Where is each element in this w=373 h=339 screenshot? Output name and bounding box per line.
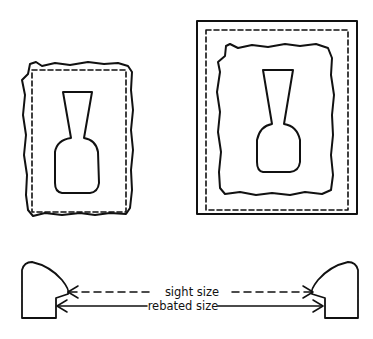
sight-size-label: sight size xyxy=(165,285,219,299)
framed-picture xyxy=(197,21,357,214)
vase-drawing xyxy=(257,70,300,172)
unframed-picture xyxy=(22,62,133,216)
left-moulding-profile xyxy=(22,262,68,318)
vase-drawing xyxy=(55,92,99,193)
sight-line-dashed xyxy=(206,30,348,210)
framing-diagram: sight size rebated size xyxy=(0,0,373,339)
rebated-size-label: rebated size xyxy=(148,299,219,313)
right-moulding-profile xyxy=(312,262,358,318)
